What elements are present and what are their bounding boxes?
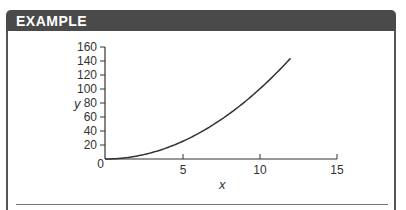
x-tick-label: 15	[330, 163, 344, 177]
x-tick-label: 5	[180, 163, 187, 177]
origin-label: 0	[97, 157, 104, 171]
y-tick-label: 80	[84, 96, 98, 110]
y-ticks	[100, 47, 105, 145]
y-tick-label: 100	[77, 82, 97, 96]
x-axis-label: x	[218, 177, 226, 192]
curve-y-equals-x-squared	[105, 58, 291, 159]
y-tick-label: 120	[77, 68, 97, 82]
x-ticks	[183, 154, 337, 159]
y-tick-label: 60	[84, 110, 98, 124]
y-tick-label: 20	[84, 138, 98, 152]
y-tick-label: 160	[77, 40, 97, 54]
y-tick-label: 140	[77, 54, 97, 68]
x-tick-label: 10	[253, 163, 267, 177]
y-axis-label: y	[73, 96, 82, 111]
chart: 160 140 120 100 80 60 40 20 0 5 10 15 y …	[0, 0, 406, 210]
y-tick-label: 40	[84, 124, 98, 138]
